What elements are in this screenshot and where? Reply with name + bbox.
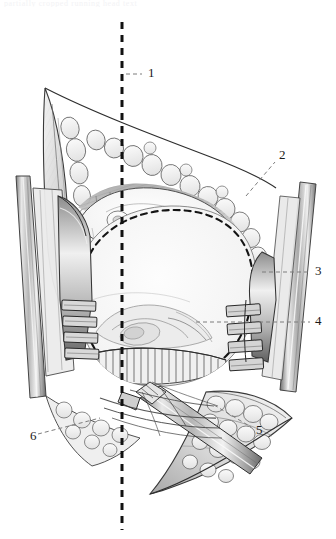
label-4: 4 <box>315 313 322 328</box>
label-3: 3 <box>315 263 322 278</box>
label-6: 6 <box>30 428 37 443</box>
leader-2 <box>246 162 275 196</box>
label-1: 1 <box>148 65 155 80</box>
label-2: 2 <box>279 147 286 162</box>
label-5: 5 <box>256 422 263 437</box>
surgical-illustration-plate: 1 2 3 4 5 6 <box>0 0 336 539</box>
figure-root: partially cropped running head text <box>0 0 336 539</box>
